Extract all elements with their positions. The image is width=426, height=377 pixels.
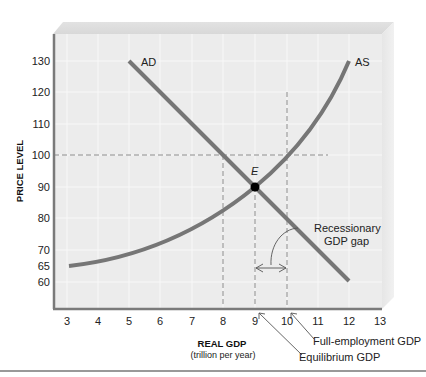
svg-text:9: 9 [252, 315, 258, 327]
svg-text:3: 3 [64, 315, 70, 327]
plot-side-bevel [382, 22, 394, 309]
svg-text:13: 13 [374, 315, 386, 327]
svg-text:90: 90 [38, 181, 50, 193]
svg-text:10: 10 [281, 315, 293, 327]
plot-area [53, 34, 382, 309]
x-tick-labels: 3 4 5 6 7 8 9 10 11 12 13 [64, 315, 386, 327]
gdp-gap-label: GDP gap [324, 235, 369, 247]
svg-text:11: 11 [312, 315, 323, 327]
svg-text:4: 4 [95, 315, 101, 327]
plot-top-bevel [53, 22, 394, 34]
svg-text:110: 110 [32, 118, 50, 130]
x-axis-title: REAL GDP [198, 338, 248, 349]
svg-text:12: 12 [343, 315, 355, 327]
equilibrium-point [251, 183, 260, 192]
bottom-divider [0, 370, 426, 372]
pointer-full-employment [291, 313, 314, 339]
svg-text:7: 7 [189, 315, 195, 327]
recessionary-label: Recessionary [314, 222, 381, 234]
svg-text:6: 6 [157, 315, 163, 327]
svg-text:70: 70 [38, 244, 50, 256]
svg-text:65: 65 [38, 260, 50, 272]
svg-text:60: 60 [38, 276, 50, 288]
chart-canvas: AD AS E Recessionary GDP gap Full-employ… [0, 0, 426, 377]
svg-text:80: 80 [38, 212, 50, 224]
e-label: E [251, 165, 259, 177]
svg-text:5: 5 [126, 315, 132, 327]
x-axis-subtitle: (trillion per year) [190, 350, 255, 360]
full-employment-label: Full-employment GDP [313, 335, 421, 347]
svg-text:100: 100 [32, 149, 50, 161]
as-label: AS [355, 56, 370, 68]
svg-text:8: 8 [220, 315, 226, 327]
y-axis-title: PRICE LEVEL [14, 140, 25, 202]
y-tick-labels: 130 120 110 100 90 80 70 65 60 [32, 55, 50, 288]
svg-text:120: 120 [32, 86, 50, 98]
ad-label: AD [141, 56, 156, 68]
svg-text:130: 130 [32, 55, 50, 67]
equilibrium-gdp-label: Equilibrium GDP [299, 351, 380, 363]
